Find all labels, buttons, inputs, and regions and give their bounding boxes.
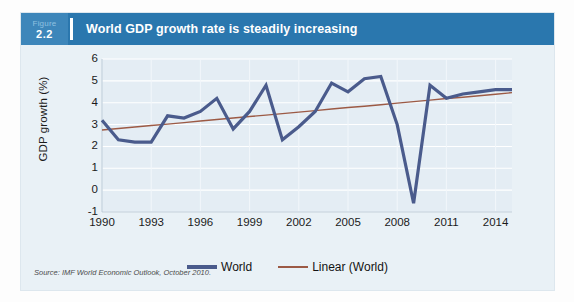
page-root: Figure 2.2 World GDP growth rate is stea…: [0, 0, 574, 302]
plot-canvas: [21, 45, 554, 257]
legend-item-linear-world: Linear (World): [278, 260, 388, 274]
figure-card: Figure 2.2 World GDP growth rate is stea…: [21, 13, 554, 290]
chart-area: GDP growth (%) 6 5 4 3 2 1 0 -1 1990 199…: [21, 45, 554, 257]
plot-background: [102, 59, 512, 212]
figure-title: World GDP growth rate is steadily increa…: [73, 13, 554, 45]
legend-swatch-linear-icon: [278, 266, 308, 268]
figure-tag-number: 2.2: [36, 28, 53, 40]
source-note: Source: IMF World Economic Outlook, Octo…: [34, 268, 211, 277]
figure-tag-word: Figure: [33, 19, 57, 28]
figure-number-tag: Figure 2.2: [21, 13, 68, 45]
figure-header-bar: Figure 2.2 World GDP growth rate is stea…: [21, 13, 554, 45]
legend-label-world: World: [221, 260, 252, 274]
legend-label-linear-world: Linear (World): [312, 260, 388, 274]
